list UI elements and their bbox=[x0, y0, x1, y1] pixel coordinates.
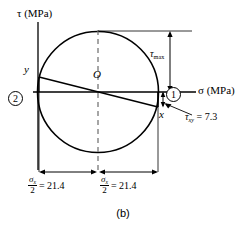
tauxy-dimension bbox=[161, 92, 166, 108]
tau-xy-subscript: xy bbox=[189, 116, 195, 123]
tau-xy-value: = 7.3 bbox=[197, 111, 218, 122]
tau-axis-label: τ (MPa) bbox=[17, 8, 52, 19]
point-x-label: x bbox=[159, 109, 164, 120]
sigma-half-left-numerator: σx bbox=[28, 175, 37, 184]
sigma-half-left-label: σx 2 = 21.4 bbox=[28, 175, 65, 196]
figure-caption: (b) bbox=[0, 208, 246, 219]
center-point-label: O bbox=[93, 69, 101, 80]
sigma-half-right-label: σx 2 = 21.4 bbox=[100, 175, 137, 196]
tau-xy-label: τxy = 7.3 bbox=[185, 112, 217, 122]
sigma-axis-label: σ (MPa) bbox=[198, 85, 235, 96]
sigma-half-right-numerator: σx bbox=[100, 175, 109, 184]
sigma-half-left-denominator: 2 bbox=[30, 186, 35, 195]
principal-point-1-badge: 1 bbox=[166, 87, 181, 102]
sigma-half-right-value: = 21.4 bbox=[111, 180, 137, 191]
sigma-half-left-fraction: σx 2 bbox=[28, 175, 37, 196]
sigma-half-left-dimension bbox=[39, 169, 97, 174]
point-y-label: y bbox=[24, 64, 29, 75]
taumax-dimension bbox=[167, 31, 172, 92]
tau-max-subscript: max bbox=[154, 53, 165, 60]
sigma-half-right-fraction: σx 2 bbox=[100, 175, 109, 196]
sigma-half-right-denominator: 2 bbox=[102, 186, 107, 195]
sigma-half-left-value: = 21.4 bbox=[39, 180, 65, 191]
sigma-half-right-dimension bbox=[99, 169, 158, 174]
principal-point-2-badge: 2 bbox=[8, 91, 23, 106]
tau-max-label: τmax bbox=[150, 49, 164, 59]
